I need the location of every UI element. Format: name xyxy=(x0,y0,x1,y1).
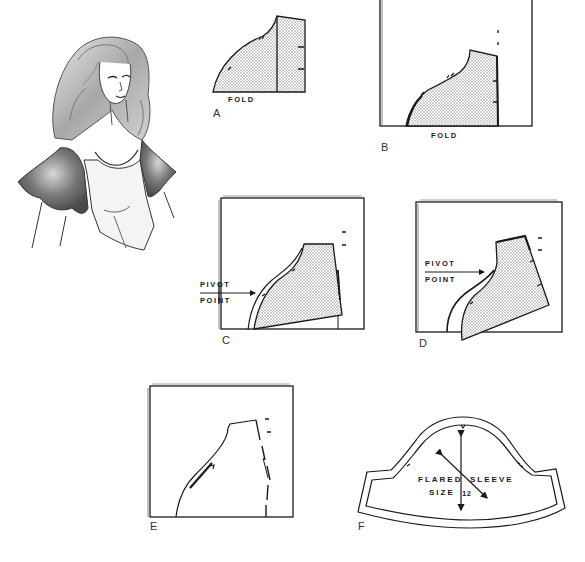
step-a-label: A xyxy=(213,107,220,119)
diagram-canvas: FOLD A FOLD B PIVOT POINT C PIVOT POINT … xyxy=(0,0,585,562)
step-f-sleeve-label: SLEEVE xyxy=(470,475,514,484)
step-f-flared-label: FLARED xyxy=(418,475,462,484)
step-a-fold-label: FOLD xyxy=(228,95,255,104)
step-d-point-label: POINT xyxy=(425,275,456,284)
step-c-point-label: POINT xyxy=(200,296,231,305)
step-d-label: D xyxy=(419,337,427,349)
step-c-label: C xyxy=(222,334,230,346)
woman-illustration xyxy=(18,37,176,250)
step-d-pivot-label: PIVOT xyxy=(425,259,456,268)
step-f-size-label: SIZE xyxy=(429,488,455,497)
step-c-pattern xyxy=(200,196,364,330)
step-b-pattern xyxy=(380,0,532,126)
step-f-size-value: 12 xyxy=(462,489,471,498)
step-d-pattern xyxy=(416,200,562,340)
step-b-fold-label: FOLD xyxy=(431,131,458,140)
step-e-pattern xyxy=(148,384,293,517)
step-b-label: B xyxy=(381,141,388,153)
step-e-label: E xyxy=(150,520,157,532)
step-f-pattern xyxy=(358,417,565,528)
step-c-pivot-label: PIVOT xyxy=(200,280,231,289)
step-a-pattern xyxy=(213,16,305,92)
step-f-label: F xyxy=(358,520,365,532)
